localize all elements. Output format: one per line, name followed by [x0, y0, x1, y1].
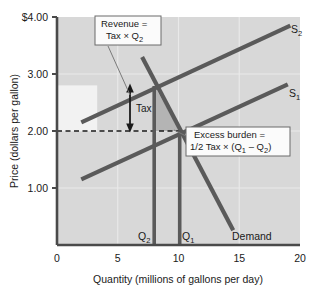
- supply-demand-tax-chart: Tax $4.00 3.00 2.00 1.00 0 5 10 15 20 Qu…: [0, 0, 318, 293]
- tax-incidence-chart-figure: Tax $4.00 3.00 2.00 1.00 0 5 10 15 20 Qu…: [0, 0, 318, 293]
- y-tick-label-4: $4.00: [22, 11, 48, 23]
- y-axis-title: Price (dollars per gallon): [8, 74, 20, 188]
- x-tick-label-10: 10: [173, 252, 185, 264]
- x-tick-label-0: 0: [54, 252, 60, 264]
- x-tick-label-5: 5: [115, 252, 121, 264]
- x-axis-title: Quantity (millions of gallons per day): [93, 273, 263, 285]
- y-tick-label-2: 2.00: [28, 125, 49, 137]
- tax-arrow-label: Tax: [136, 103, 152, 114]
- revenue-region: [57, 85, 97, 131]
- x-tick-label-15: 15: [233, 252, 245, 264]
- revenue-callout-line1: Revenue =: [101, 18, 148, 29]
- y-tick-label-1: 1.00: [28, 182, 49, 194]
- demand-curve-label: Demand: [232, 230, 272, 242]
- y-tick-label-3: 3.00: [28, 68, 49, 80]
- excess-burden-callout-line1: Excess burden =: [194, 129, 265, 140]
- x-tick-label-20: 20: [294, 252, 306, 264]
